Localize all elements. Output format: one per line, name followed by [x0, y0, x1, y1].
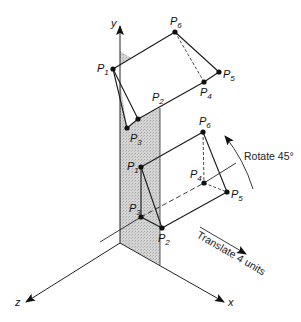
- shaded-plane: [120, 51, 160, 265]
- z-axis: [26, 243, 120, 302]
- y-axis-label: y: [110, 17, 118, 29]
- upper-p2-label: P2: [152, 91, 164, 106]
- lower-p6-label: P6: [199, 115, 211, 130]
- upper-labels: P1 P6 P5 P4 P2 P3: [97, 15, 235, 147]
- lower-p4-label: P4: [190, 168, 202, 183]
- translate-annotation: Translate 4 units: [195, 227, 268, 277]
- lower-p5-label: P5: [231, 188, 243, 203]
- transform-diagram: y z x P1 P6 P5 P4 P2 P3: [0, 0, 301, 322]
- upper-p6-label: P6: [170, 15, 182, 30]
- upper-p5-label: P5: [223, 68, 235, 83]
- x-axis-label: x: [227, 296, 234, 308]
- rotate-annotation: Rotate 45°: [225, 136, 294, 189]
- x-axis: [120, 243, 224, 302]
- rotate-label: Rotate 45°: [244, 150, 294, 162]
- upper-p4-label: P4: [200, 86, 212, 101]
- z-axis-label: z: [14, 296, 21, 308]
- translate-label: Translate 4 units: [195, 228, 268, 277]
- upper-p1-label: P1: [97, 62, 109, 77]
